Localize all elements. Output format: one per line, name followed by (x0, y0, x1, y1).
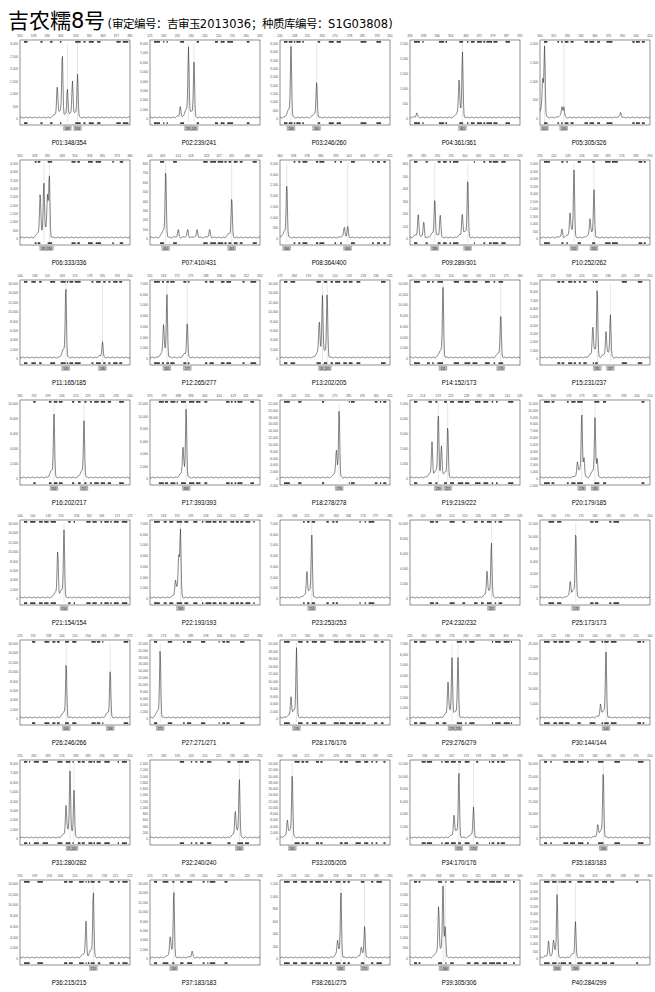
svg-text:289: 289 (475, 634, 481, 638)
svg-text:200: 200 (360, 634, 366, 638)
svg-text:6,000: 6,000 (530, 436, 538, 440)
svg-text:326: 326 (561, 127, 566, 131)
svg-text:288: 288 (203, 274, 209, 278)
svg-text:279: 279 (188, 274, 194, 278)
svg-text:0: 0 (16, 837, 18, 841)
svg-text:283: 283 (73, 754, 79, 758)
svg-text:0: 0 (406, 237, 408, 241)
svg-text:300: 300 (143, 209, 149, 213)
svg-text:4,000: 4,000 (270, 50, 278, 54)
svg-text:303: 303 (503, 634, 509, 638)
svg-text:3,000: 3,000 (530, 912, 538, 916)
svg-text:175: 175 (147, 754, 153, 758)
svg-text:5,000: 5,000 (530, 162, 538, 166)
svg-text:282: 282 (374, 874, 380, 878)
locus-genotype-label: P26:246/266 (14, 738, 125, 747)
svg-text:2,000: 2,000 (530, 585, 538, 589)
svg-text:201: 201 (318, 274, 324, 278)
svg-text:3,500: 3,500 (270, 59, 278, 63)
svg-text:1,000: 1,000 (140, 806, 148, 810)
svg-text:10,000: 10,000 (8, 402, 18, 406)
svg-text:130: 130 (565, 634, 571, 638)
svg-text:4,000: 4,000 (140, 452, 148, 456)
svg-text:200: 200 (647, 754, 653, 758)
svg-text:246: 246 (288, 127, 293, 131)
svg-text:7,000: 7,000 (140, 522, 148, 526)
svg-text:436: 436 (245, 154, 251, 158)
svg-text:285: 285 (421, 154, 427, 158)
svg-text:14,000: 14,000 (8, 291, 18, 295)
svg-text:160: 160 (462, 274, 468, 278)
svg-text:2,000: 2,000 (270, 576, 278, 580)
svg-text:320: 320 (517, 154, 523, 158)
svg-text:219: 219 (436, 487, 441, 491)
svg-text:2,400: 2,400 (140, 762, 148, 766)
svg-text:500: 500 (533, 98, 539, 102)
svg-text:18,000: 18,000 (268, 416, 278, 420)
svg-text:400: 400 (273, 932, 279, 936)
svg-text:417: 417 (374, 154, 380, 158)
svg-text:20,000: 20,000 (268, 775, 278, 779)
locus-genotype-label: P17:393/393 (144, 498, 255, 507)
svg-text:8,000: 8,000 (10, 560, 18, 564)
svg-text:283: 283 (633, 154, 639, 158)
svg-text:289: 289 (188, 634, 194, 638)
svg-text:336: 336 (47, 247, 52, 251)
svg-text:330: 330 (407, 34, 413, 38)
svg-text:200: 200 (647, 514, 653, 518)
svg-text:379: 379 (161, 394, 167, 398)
svg-text:440: 440 (257, 154, 263, 158)
svg-text:241: 241 (191, 127, 196, 131)
svg-text:262: 262 (31, 754, 37, 758)
svg-text:215: 215 (91, 967, 96, 971)
svg-text:204: 204 (634, 394, 640, 398)
peak-plot: 16016517017518018519019520002,0004,0006,… (524, 510, 654, 630)
svg-text:4,000: 4,000 (10, 338, 18, 342)
svg-text:376: 376 (304, 154, 310, 158)
svg-text:176: 176 (471, 847, 476, 851)
electropherogram-panel: 4054094144184234274314364400100200300400… (134, 150, 264, 270)
svg-text:235: 235 (230, 754, 236, 758)
svg-text:230: 230 (161, 34, 167, 38)
svg-text:1,000: 1,000 (530, 349, 538, 353)
svg-text:192: 192 (31, 394, 37, 398)
svg-text:3,000: 3,000 (140, 325, 148, 329)
svg-text:263: 263 (161, 274, 167, 278)
svg-text:180: 180 (305, 634, 311, 638)
svg-text:2,000: 2,000 (140, 336, 148, 340)
svg-text:6,000: 6,000 (140, 697, 148, 701)
svg-text:377: 377 (114, 34, 120, 38)
locus-genotype-label: P07:410/431 (144, 258, 255, 267)
locus-genotype-label: P12:265/277 (144, 378, 255, 387)
svg-text:9,000: 9,000 (530, 282, 538, 286)
svg-text:5,000: 5,000 (270, 543, 278, 547)
peak-plot: 12012513013514014515015516005,00010,0001… (524, 630, 654, 750)
svg-text:2,000: 2,000 (400, 346, 408, 350)
svg-text:500: 500 (13, 105, 19, 109)
svg-text:4,000: 4,000 (400, 567, 408, 571)
peak-plot: 1751851952052152252352452550200400600800… (134, 750, 264, 870)
svg-text:160: 160 (537, 394, 543, 398)
svg-text:328: 328 (32, 154, 38, 158)
svg-text:18,000: 18,000 (268, 650, 278, 654)
svg-text:22,000: 22,000 (268, 768, 278, 772)
svg-text:4,500: 4,500 (530, 170, 538, 174)
svg-text:178: 178 (476, 754, 482, 758)
svg-text:0: 0 (536, 477, 538, 481)
svg-text:255: 255 (305, 34, 311, 38)
svg-text:12,000: 12,000 (8, 893, 18, 897)
electropherogram-panel: 17017518018519019520020521002,0004,0006,… (264, 630, 394, 750)
peak-plot: 2802852902953003053103153200100200300400… (394, 150, 524, 270)
svg-text:245: 245 (202, 34, 208, 38)
svg-text:176: 176 (294, 727, 299, 731)
svg-text:200: 200 (277, 754, 283, 758)
svg-text:233: 233 (491, 514, 497, 518)
svg-text:4,000: 4,000 (400, 674, 408, 678)
svg-text:0: 0 (406, 957, 408, 961)
svg-text:0: 0 (16, 717, 18, 721)
svg-text:175: 175 (277, 274, 283, 278)
svg-text:173: 173 (498, 367, 503, 371)
svg-text:3,000: 3,000 (10, 42, 18, 46)
svg-text:393: 393 (333, 154, 339, 158)
svg-text:252: 252 (571, 247, 576, 251)
